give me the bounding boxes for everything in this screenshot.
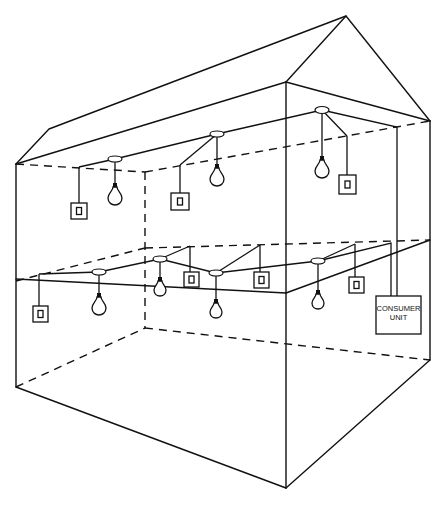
ceiling-rose xyxy=(153,256,167,262)
light-bulb-icon xyxy=(210,164,224,186)
consumer-unit-label-line2: UNIT xyxy=(390,313,408,322)
light-bulb-icon xyxy=(315,156,329,178)
light-bulb-icon xyxy=(210,299,222,318)
light-bulb-icon xyxy=(154,277,166,296)
house-wiring-diagram: CONSUMER UNIT xyxy=(0,0,446,505)
consumer-unit: CONSUMER UNIT xyxy=(376,296,421,334)
light-bulbs xyxy=(92,156,329,318)
light-bulb-icon xyxy=(312,290,324,309)
floor-divide xyxy=(16,240,430,293)
walls xyxy=(16,82,430,488)
ceiling-rose xyxy=(92,269,106,275)
light-switch-icon xyxy=(33,306,48,322)
light-bulb-icon xyxy=(108,183,122,205)
ceiling-rose xyxy=(315,107,329,114)
light-switch-icon xyxy=(71,203,87,219)
light-switch-icon xyxy=(184,272,199,287)
roof xyxy=(16,16,430,164)
ceiling-roses xyxy=(92,107,329,277)
light-bulb-icon xyxy=(92,293,106,315)
first-floor-circuit xyxy=(79,110,397,300)
consumer-unit-label-line1: CONSUMER xyxy=(377,304,421,313)
light-switch-icon xyxy=(339,175,356,194)
ceiling-rose xyxy=(108,156,122,162)
light-switch-icon xyxy=(254,272,269,288)
hidden-edges xyxy=(16,121,430,387)
light-switch-icon xyxy=(171,193,189,210)
light-switch-icon xyxy=(349,277,364,293)
ceiling-rose xyxy=(311,258,325,264)
ceiling-rose xyxy=(210,131,224,137)
ceiling-rose xyxy=(209,270,223,276)
